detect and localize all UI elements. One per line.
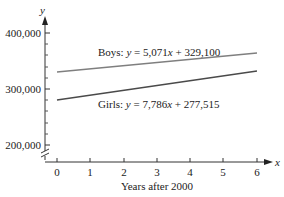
x-tick-label: 0: [54, 166, 60, 178]
x-tick-label: 3: [154, 166, 160, 178]
chart-svg: y 400,000 300,000 200,000: [0, 0, 284, 197]
chart-container: y 400,000 300,000 200,000: [0, 0, 284, 197]
x-axis-label: Years after 2000: [121, 180, 194, 192]
x-tick-label: 2: [121, 166, 127, 178]
y-axis: y 400,000 300,000 200,000: [5, 4, 50, 160]
x-tick-label: 5: [220, 166, 226, 178]
y-axis-arrow-icon: [42, 16, 48, 25]
y-tick-label: 400,000: [5, 27, 41, 39]
x-tick-label: 4: [187, 166, 193, 178]
x-tick-label: 6: [254, 166, 260, 178]
girls-line: [57, 71, 257, 100]
girls-equation-label: Girls: y = 7,786x + 277,515: [98, 98, 220, 110]
x-tick-label: 1: [87, 166, 93, 178]
x-axis-arrow-icon: [264, 159, 273, 165]
x-axis-letter: x: [274, 156, 280, 168]
x-axis: x 0 1 2 3 4 5 6 Years after 2000: [45, 156, 280, 192]
boys-equation-label: Boys: y = 5,071x + 329,100: [98, 46, 221, 58]
y-axis-letter: y: [39, 4, 45, 16]
y-tick-label: 300,000: [5, 83, 41, 95]
y-tick-label: 200,000: [5, 139, 41, 151]
